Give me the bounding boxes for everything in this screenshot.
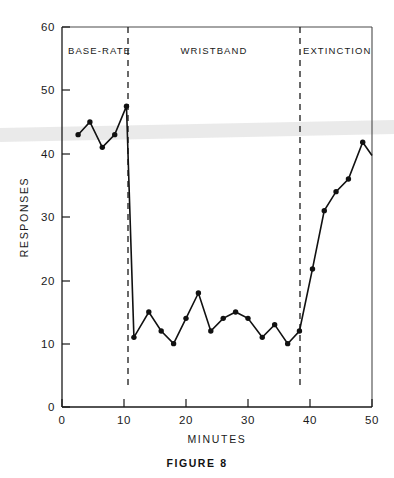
data-point (146, 309, 151, 314)
phase-label-extinction: EXTINCTION (303, 45, 372, 56)
y-tick-label-20: 20 (41, 275, 55, 287)
figure-caption: FIGURE 8 (166, 457, 227, 469)
x-tick-label-30: 30 (241, 414, 255, 426)
y-axis-title: RESPONSES (18, 177, 30, 258)
phase-labels: BASE-RATE WRISTBAND EXTINCTION (68, 45, 372, 56)
data-point (285, 341, 290, 346)
data-point (196, 290, 201, 295)
data-point (272, 322, 277, 327)
data-point (183, 316, 188, 321)
data-point (112, 132, 117, 137)
data-point (233, 309, 238, 314)
data-point (131, 335, 136, 340)
y-tick-label-40: 40 (41, 148, 55, 160)
y-tick-label-0: 0 (48, 401, 55, 413)
data-point (346, 176, 351, 181)
response-rate-line-chart: 60 50 40 30 20 10 0 0 10 20 30 40 50 MI (0, 0, 394, 478)
x-tick-label-50: 50 (365, 414, 379, 426)
data-point (208, 328, 213, 333)
data-point (75, 132, 80, 137)
data-point (297, 328, 302, 333)
data-point (87, 119, 92, 124)
data-point (310, 266, 315, 271)
data-point (260, 335, 265, 340)
data-point (124, 103, 129, 108)
data-point (100, 145, 105, 150)
phase-label-wristband: WRISTBAND (181, 45, 248, 56)
data-point (221, 316, 226, 321)
phase-label-base-rate: BASE-RATE (68, 45, 131, 56)
y-tick-label-50: 50 (41, 84, 55, 96)
data-point (245, 316, 250, 321)
data-point (333, 189, 338, 194)
data-point (159, 328, 164, 333)
x-tick-label-20: 20 (179, 414, 193, 426)
data-point (360, 140, 365, 145)
x-tick-label-0: 0 (59, 414, 66, 426)
data-point (171, 341, 176, 346)
y-tick-label-10: 10 (41, 338, 55, 350)
x-axis-title: MINUTES (187, 433, 246, 445)
figure-container: 60 50 40 30 20 10 0 0 10 20 30 40 50 MI (0, 0, 394, 478)
y-tick-label-60: 60 (41, 21, 55, 33)
chart-background (0, 0, 394, 478)
data-point (322, 208, 327, 213)
x-tick-label-40: 40 (303, 414, 317, 426)
x-tick-label-10: 10 (117, 414, 131, 426)
y-tick-label-30: 30 (41, 211, 55, 223)
